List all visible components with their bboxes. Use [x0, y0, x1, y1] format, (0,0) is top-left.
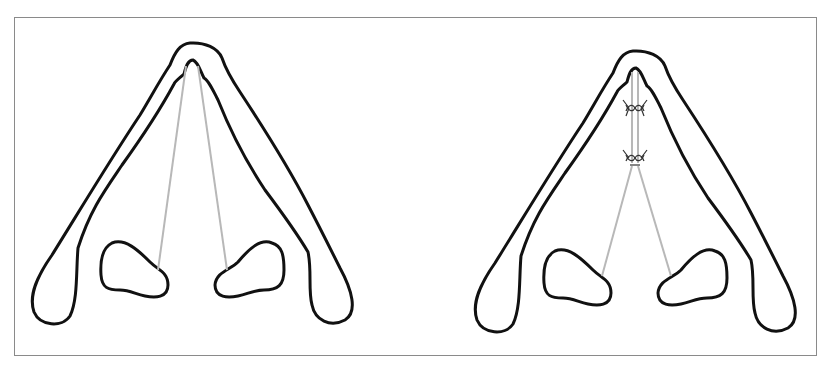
strut-right	[638, 166, 671, 276]
suture-knot-lower	[623, 150, 647, 165]
suture-knot-upper	[623, 100, 647, 116]
alar-cartilage-outline	[475, 51, 795, 332]
panel-before	[32, 43, 352, 324]
nasal-cartilage-diagram	[0, 0, 832, 372]
nostril-right	[215, 242, 284, 297]
nostril-left	[544, 250, 611, 305]
panel-after	[475, 51, 795, 332]
strut-right	[198, 66, 227, 270]
strut-left	[602, 166, 632, 276]
strut-left	[158, 66, 186, 270]
alar-cartilage-outline	[32, 43, 352, 324]
nostril-right	[658, 250, 727, 305]
